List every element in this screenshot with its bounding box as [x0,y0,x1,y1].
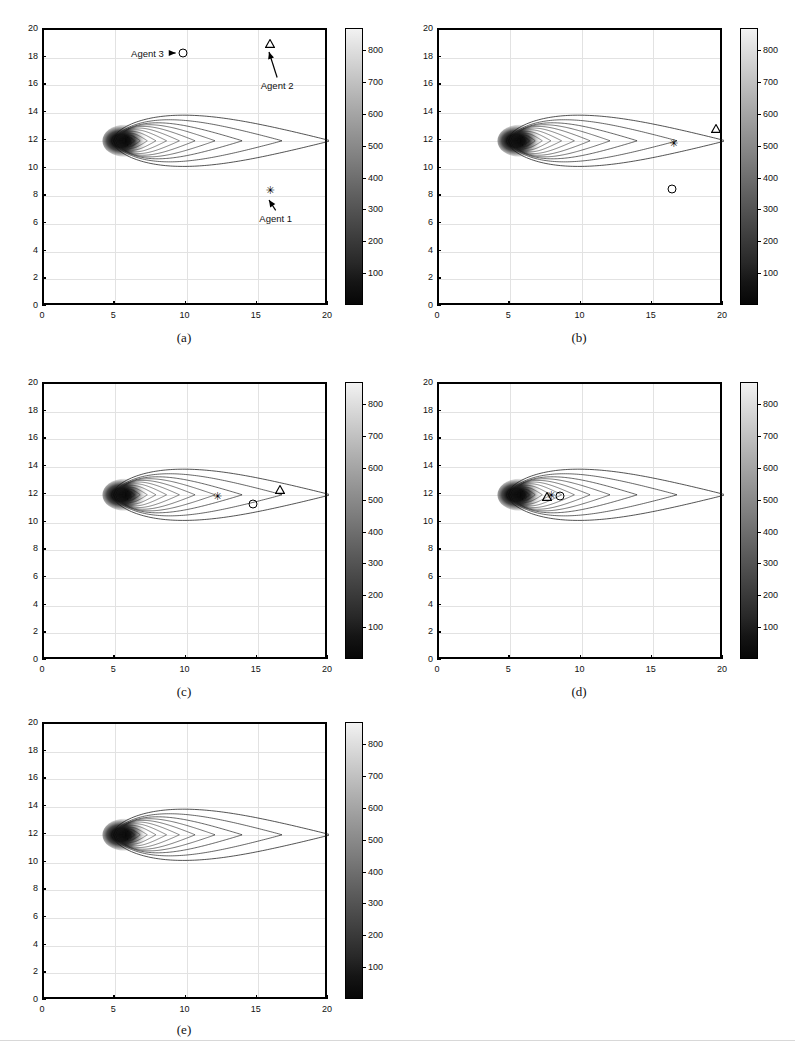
colorbar-tickmark [758,404,761,405]
x-tick-label: 15 [251,664,261,674]
y-tick-label: 10 [18,856,38,866]
gridline-horizontal [44,550,325,551]
contour-level-2 [518,489,535,501]
contour-level-3 [122,487,147,502]
y-tick-label: 8 [413,189,433,199]
gridline-horizontal [44,890,325,891]
contour-level-10 [510,120,677,162]
y-tick-label: 12 [18,488,38,498]
gridline-horizontal [44,113,325,114]
x-tick-label: 0 [39,1004,44,1014]
y-tickmark [42,521,46,522]
x-tick-label: 0 [434,310,439,320]
x-tick-label: 10 [574,310,584,320]
y-tickmark [42,548,46,549]
colorbar-tickmark [363,500,366,501]
y-tickmark [42,777,46,778]
agent-marker-triangle [711,119,721,137]
contour-level-4 [121,131,156,150]
x-tickmark [185,655,186,659]
x-tick-label: 10 [179,664,189,674]
y-tickmark [42,437,46,438]
y-tickmark [437,111,441,112]
y-tickmark [437,56,441,57]
y-tickmark [437,222,441,223]
gridline-vertical [115,724,116,997]
y-tick-label: 4 [18,939,38,949]
colorbar-tickmark [363,935,366,936]
contour-level-10 [115,814,282,856]
contour-level-5 [120,484,166,506]
agent-marker-circle [248,499,257,508]
colorbar-tickmark [363,776,366,777]
colorbar-tickmark [758,532,761,533]
x-tickmark [256,995,257,999]
gridline-horizontal [439,467,720,468]
colorbar-tick-label: 100 [368,622,383,632]
gridline-horizontal [44,946,325,947]
colorbar-tickmark [363,114,366,115]
y-tickmark [42,250,46,251]
colorbar-tick-label: 100 [763,622,778,632]
gridline-horizontal [44,633,325,634]
x-tick-label: 5 [111,1004,116,1014]
gridline-horizontal [44,606,325,607]
y-tickmark [42,722,46,723]
gridline-horizontal [44,141,325,142]
y-tick-label: 10 [18,162,38,172]
colorbar-tick-label: 800 [368,399,383,409]
colorbar-tickmark [363,404,366,405]
colorbar-tickmark [758,500,761,501]
colorbar-tick-label: 300 [763,558,778,568]
colorbar-tick-label: 200 [368,236,383,246]
y-tickmark [437,167,441,168]
y-tick-label: 10 [413,516,433,526]
y-tick-label: 18 [18,51,38,61]
plume-source-blob [102,819,146,851]
colorbar-tick-label: 700 [368,431,383,441]
y-tick-label: 0 [18,994,38,1004]
contour-level-3 [122,827,147,842]
colorbar-tickmark [363,744,366,745]
y-tick-label: 12 [413,488,433,498]
gridline-horizontal [44,863,325,864]
colorbar-tickmark [758,146,761,147]
y-tick-label: 2 [18,272,38,282]
colorbar-tick-label: 200 [368,930,383,940]
y-tickmark [42,916,46,917]
y-tickmark [437,83,441,84]
gridline-horizontal [439,495,720,496]
y-tick-label: 2 [413,626,433,636]
y-tickmark [42,56,46,57]
annotation-label: Agent 3 [131,47,164,58]
contour-level-5 [515,130,561,152]
y-tick-label: 8 [18,189,38,199]
colorbar-tickmark [363,273,366,274]
colorbar-tick-label: 600 [763,109,778,119]
agent-marker-circle [668,184,677,193]
contour-level-6 [119,128,179,153]
x-tick-label: 20 [717,664,727,674]
colorbar-tick-label: 600 [368,463,383,473]
contour-level-1 [124,831,134,839]
colorbar-tick-label: 500 [763,141,778,151]
x-tickmark [256,655,257,659]
contour-level-4 [516,131,551,150]
gridline-horizontal [439,606,720,607]
gridline-vertical [258,724,259,997]
gridline-horizontal [439,196,720,197]
y-tickmark [437,277,441,278]
x-tick-label: 15 [646,310,656,320]
y-tick-label: 16 [18,772,38,782]
page-bottom-rule [0,1040,795,1041]
contour-level-11 [507,469,724,520]
y-tick-label: 2 [413,272,433,282]
y-tick-label: 14 [18,800,38,810]
x-tickmark [722,301,723,305]
x-tickmark [437,301,438,305]
colorbar-tickmark [363,178,366,179]
gridlines-d [439,384,720,657]
colorbar-tickmark [758,241,761,242]
contour-level-10 [510,474,677,516]
colorbar-tick-label: 800 [763,399,778,409]
